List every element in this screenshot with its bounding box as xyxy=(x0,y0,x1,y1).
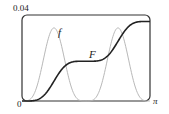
f-label: f xyxy=(58,27,61,38)
x-tick-pi: π xyxy=(153,97,158,106)
F-curve xyxy=(22,21,150,101)
plot-canvas xyxy=(0,0,169,114)
F-label: F xyxy=(89,49,96,60)
origin-label: 0 xyxy=(17,100,22,109)
plot-frame xyxy=(22,15,150,101)
y-tick-top: 0.04 xyxy=(13,4,29,13)
f-curve xyxy=(22,28,150,101)
